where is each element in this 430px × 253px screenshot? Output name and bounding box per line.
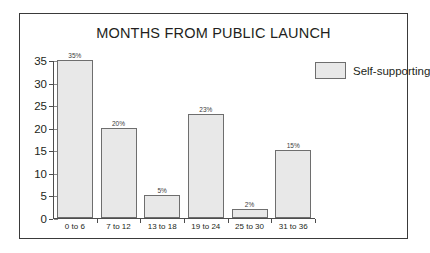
legend-swatch-self-supporting <box>315 62 346 79</box>
y-axis-label: 15 <box>34 145 47 157</box>
bar-value-label: 23% <box>199 106 212 113</box>
x-axis-label: 19 to 24 <box>191 222 220 231</box>
y-axis-label: 25 <box>34 100 47 112</box>
bar-value-label: 5% <box>157 187 166 194</box>
x-axis-label: 25 to 30 <box>235 222 264 231</box>
bar[interactable]: 15%31 to 36 <box>275 150 311 218</box>
y-axis-label: 35 <box>34 55 47 67</box>
y-axis-label: 5 <box>41 190 47 202</box>
bar-value-label: 15% <box>287 142 300 149</box>
x-axis-label: 0 to 6 <box>65 222 85 231</box>
bar-value-label: 35% <box>68 52 81 59</box>
y-axis-line <box>53 61 54 219</box>
x-axis-label: 13 to 18 <box>148 222 177 231</box>
bar[interactable]: 5%13 to 18 <box>144 195 180 218</box>
bar[interactable]: 20%7 to 12 <box>101 128 137 218</box>
y-axis-tick <box>49 129 53 130</box>
y-axis-tick <box>49 61 53 62</box>
y-axis-label: 0 <box>41 213 47 225</box>
x-axis-label: 7 to 12 <box>106 222 130 231</box>
y-axis-tick <box>49 106 53 107</box>
x-axis-tick <box>140 219 141 223</box>
x-axis-tick <box>315 219 316 223</box>
y-axis-tick <box>49 151 53 152</box>
plot-area: 05101520253035 35%0 to 620%7 to 125%13 t… <box>53 61 315 219</box>
chart-figure: MONTHS FROM PUBLIC LAUNCH 05101520253035… <box>19 13 408 239</box>
y-axis-label: 10 <box>34 168 47 180</box>
bar-value-label: 2% <box>245 201 254 208</box>
chart-title: MONTHS FROM PUBLIC LAUNCH <box>20 25 407 41</box>
x-axis-tick <box>228 219 229 223</box>
x-axis-tick <box>184 219 185 223</box>
y-axis-tick <box>49 219 53 220</box>
bar-value-label: 20% <box>112 120 125 127</box>
y-axis-label: 30 <box>34 78 47 90</box>
chart-legend: Self-supporting <box>315 62 430 79</box>
y-axis-label: 20 <box>34 123 47 135</box>
y-axis-tick-inner <box>54 219 58 220</box>
bar[interactable]: 35%0 to 6 <box>57 60 93 218</box>
x-axis-tick <box>271 219 272 223</box>
x-axis-label: 31 to 36 <box>279 222 308 231</box>
x-axis-tick <box>97 219 98 223</box>
y-axis-tick <box>49 196 53 197</box>
legend-label-self-supporting: Self-supporting <box>353 65 430 77</box>
y-axis-tick <box>49 84 53 85</box>
bar[interactable]: 23%19 to 24 <box>188 114 224 218</box>
y-axis-tick <box>49 174 53 175</box>
bar[interactable]: 2%25 to 30 <box>232 209 268 218</box>
